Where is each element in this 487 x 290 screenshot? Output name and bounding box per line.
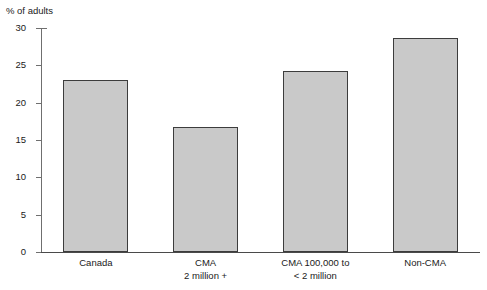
x-label-canada: Canada xyxy=(41,256,151,269)
y-tick-label-30: 30 xyxy=(15,23,26,33)
y-tick-label-15: 15 xyxy=(15,135,26,145)
y-tick-label-25: 25 xyxy=(15,60,26,70)
y-axis-title: % of adults xyxy=(6,5,53,16)
bar-chart: % of adults 30 25 20 15 10 5 0 xyxy=(0,0,487,290)
y-tick-30: 30 xyxy=(36,28,41,29)
bar-canada xyxy=(63,80,128,252)
x-label-canada-line1: Canada xyxy=(79,257,112,268)
y-tick-10: 10 xyxy=(36,177,41,178)
y-tick-label-20: 20 xyxy=(15,98,26,108)
y-tick-0: 0 xyxy=(36,252,41,253)
x-label-cma-2m: CMA 2 million + xyxy=(151,256,261,282)
bar-cma-100k xyxy=(283,71,348,252)
x-label-cma-100k: CMA 100,000 to < 2 million xyxy=(261,256,371,282)
y-tick-label-0: 0 xyxy=(21,247,26,257)
y-tick-label-5: 5 xyxy=(21,210,26,220)
y-axis-line xyxy=(41,28,42,252)
x-label-cma-100k-line1: CMA 100,000 to xyxy=(281,257,349,268)
plot-area: 30 25 20 15 10 5 0 xyxy=(41,28,480,252)
y-tick-5: 5 xyxy=(36,215,41,216)
x-label-cma-2m-line2: 2 million + xyxy=(151,269,261,282)
x-label-cma-2m-line1: CMA xyxy=(195,257,216,268)
y-tick-15: 15 xyxy=(36,140,41,141)
y-tick-label-10: 10 xyxy=(15,172,26,182)
bar-cma-2m xyxy=(173,127,238,252)
y-tick-mark-30 xyxy=(41,28,47,29)
x-axis-line xyxy=(41,252,480,253)
y-tick-25: 25 xyxy=(36,65,41,66)
x-label-cma-100k-line2: < 2 million xyxy=(261,269,371,282)
y-tick-20: 20 xyxy=(36,103,41,104)
x-axis-labels: Canada CMA 2 million + CMA 100,000 to < … xyxy=(41,256,480,290)
x-label-non-cma: Non-CMA xyxy=(370,256,480,269)
x-label-non-cma-line1: Non-CMA xyxy=(404,257,446,268)
bar-non-cma xyxy=(393,38,458,252)
